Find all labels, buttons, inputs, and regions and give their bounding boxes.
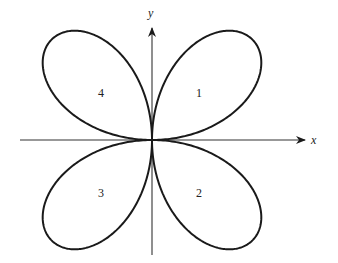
rose-diagram — [0, 0, 338, 263]
petal-label-1: 1 — [196, 86, 202, 101]
petal-2 — [152, 140, 261, 249]
petal-label-2: 2 — [196, 186, 202, 201]
petal-label-3: 3 — [98, 186, 104, 201]
x-axis-label: x — [311, 133, 316, 148]
y-axis-label: y — [148, 6, 153, 21]
petal-1 — [152, 31, 261, 140]
petal-label-4: 4 — [98, 86, 104, 101]
